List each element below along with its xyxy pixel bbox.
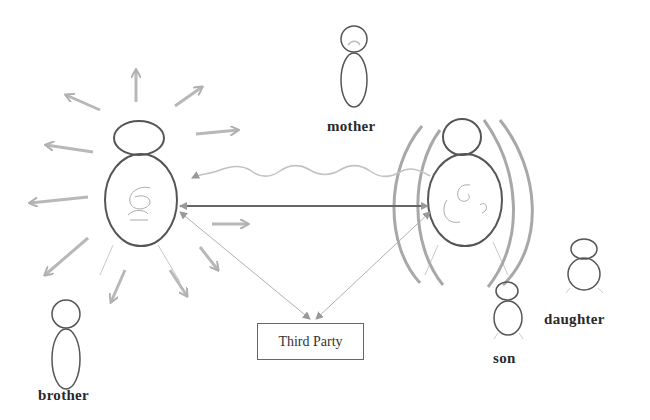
daughter-label: daughter <box>544 311 605 328</box>
mother-label: mother <box>327 118 375 135</box>
brother-label: brother <box>38 387 89 404</box>
left-to-third-party <box>180 212 310 319</box>
mother-figure <box>341 26 367 107</box>
protective-arcs <box>394 120 532 287</box>
son-label: son <box>493 350 516 367</box>
son-figure <box>494 282 523 339</box>
faint-strokes <box>100 242 508 282</box>
daughter-figure <box>566 239 603 293</box>
brother-figure <box>52 300 80 389</box>
left-person-figure <box>105 121 177 246</box>
third-party-box: Third Party <box>257 323 364 360</box>
right-to-third-party <box>316 212 430 319</box>
right-person-figure <box>428 119 502 246</box>
wavy-connection <box>192 166 430 178</box>
radiating-arrows <box>30 70 248 302</box>
